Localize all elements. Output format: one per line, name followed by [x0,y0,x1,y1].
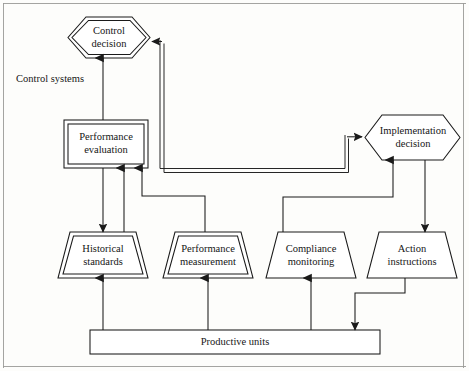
connector-cm-to-id [283,160,393,232]
compliance-monitoring-shape [266,232,356,278]
action-instructions-shape [367,232,457,278]
control-systems-label: Control systems [16,72,84,86]
connector-ai-to-pu [355,278,405,330]
page-frame [3,3,466,368]
historical-standards-shape [58,232,148,278]
performance-evaluation-shape [64,120,148,168]
control-decision-shape [68,17,150,58]
productive-units-shape [90,330,380,354]
control-systems-label-line1: Control [16,73,48,84]
feedback-bus [160,40,349,173]
control-systems-label-line2: systems [51,73,84,84]
connector-pm-to-pe [142,168,205,232]
control-systems-flow-diagram [0,0,469,371]
implementation-decision-shape [365,115,460,160]
performance-measurement-shape [163,232,253,278]
diagram-canvas: Control systems Control decision Impleme… [0,0,469,371]
